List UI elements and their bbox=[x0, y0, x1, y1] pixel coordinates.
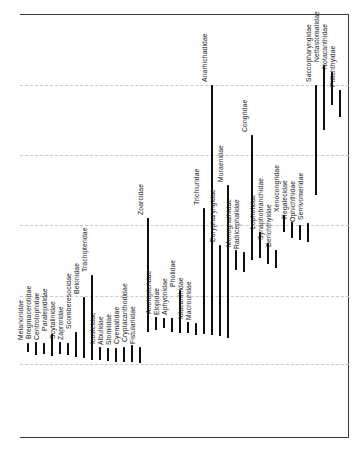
family-label: Synaphobranchidae bbox=[257, 178, 264, 240]
range-bar bbox=[323, 65, 326, 130]
family-label: Ophichthidae bbox=[289, 181, 296, 222]
family-label: Cryptacanthodidae bbox=[121, 283, 128, 342]
family-label: Zoarcidae bbox=[137, 184, 144, 215]
range-bar bbox=[67, 343, 70, 355]
family-label: Albulidae bbox=[97, 316, 104, 345]
family-label: Regalecidae bbox=[281, 180, 288, 219]
range-bar bbox=[315, 85, 318, 195]
chart-frame-right-line bbox=[348, 14, 349, 438]
range-bar bbox=[123, 347, 126, 362]
range-bar bbox=[83, 297, 86, 358]
family-label: Cyematidae bbox=[113, 307, 120, 344]
range-bar bbox=[75, 332, 78, 357]
family-label: Fistulariidae bbox=[129, 306, 136, 344]
range-bar bbox=[171, 318, 174, 332]
family-label: Zaproridae bbox=[57, 306, 64, 340]
range-bar bbox=[219, 245, 222, 336]
family-label: Aphyonidae bbox=[161, 278, 168, 315]
family-label: Derichthyidae bbox=[265, 204, 272, 247]
family-label: Icosteidae bbox=[89, 312, 96, 344]
range-chart-figure: MelanonidaeBregmacerotidaeCentrolophidae… bbox=[0, 0, 359, 454]
range-bar bbox=[339, 90, 342, 117]
family-label: Macrouridae bbox=[185, 281, 192, 320]
dashed-gridline bbox=[20, 155, 349, 156]
range-bar bbox=[139, 347, 142, 363]
range-bar bbox=[275, 250, 278, 268]
family-label: Saccopharyngidae bbox=[305, 24, 312, 82]
family-label: Stomiidae bbox=[105, 314, 112, 345]
family-label: Monognathidae bbox=[225, 199, 232, 247]
range-bar bbox=[235, 250, 238, 270]
range-bar bbox=[291, 222, 294, 238]
range-bar bbox=[187, 322, 190, 333]
dashed-gridline bbox=[20, 85, 349, 86]
family-label: Bregmacerotidae bbox=[25, 286, 32, 339]
family-label: Xenocongridae bbox=[273, 165, 280, 212]
family-label: Notacanthidae bbox=[321, 24, 328, 69]
family-label: Anarhichadidae bbox=[201, 33, 208, 82]
range-bar bbox=[163, 318, 166, 328]
family-label: Idiacanthidae bbox=[177, 277, 184, 319]
family-label: Melanonidae bbox=[17, 300, 24, 340]
family-label: Trachipteridae bbox=[81, 227, 88, 272]
range-bar bbox=[107, 348, 110, 361]
range-bar bbox=[307, 223, 310, 242]
range-bar bbox=[299, 225, 302, 240]
family-label: Radiicephalidae bbox=[233, 199, 240, 249]
family-label: Congridae bbox=[241, 100, 248, 132]
family-label: Lophotidae bbox=[249, 194, 256, 229]
family-label: Paralepididae bbox=[41, 288, 48, 331]
range-bar bbox=[203, 208, 206, 334]
family-label: Elopidae bbox=[153, 288, 160, 315]
dashed-gridline bbox=[20, 364, 349, 365]
family-label: Pholidae bbox=[169, 260, 176, 287]
range-bar bbox=[43, 343, 46, 354]
family-label: Eurypharyngidae bbox=[209, 189, 216, 242]
family-label: Ptilichthyidae bbox=[329, 46, 336, 87]
range-bar bbox=[243, 252, 246, 272]
family-label: Scomberesocidae bbox=[65, 273, 72, 329]
family-label: Belonidae bbox=[73, 263, 80, 294]
family-label: Trichiuridae bbox=[193, 169, 200, 205]
range-bar bbox=[99, 347, 102, 360]
range-bar bbox=[35, 342, 38, 355]
range-bar bbox=[27, 343, 30, 352]
chart-frame-bottom-line bbox=[20, 437, 349, 438]
range-bar bbox=[155, 317, 158, 330]
family-label: Scytalinidae bbox=[49, 301, 56, 339]
family-label: Serrivomeridae bbox=[297, 173, 304, 221]
family-label: Centrolophidae bbox=[33, 292, 40, 340]
family-label: Nettastomatidae bbox=[313, 11, 320, 62]
range-bar bbox=[195, 323, 198, 335]
chart-frame-top-line bbox=[20, 14, 349, 15]
family-label: Muraenidae bbox=[217, 145, 224, 182]
family-label: Anotopteridae bbox=[145, 270, 152, 314]
range-bar bbox=[131, 345, 134, 362]
range-bar bbox=[59, 342, 62, 354]
range-bar bbox=[115, 348, 118, 362]
